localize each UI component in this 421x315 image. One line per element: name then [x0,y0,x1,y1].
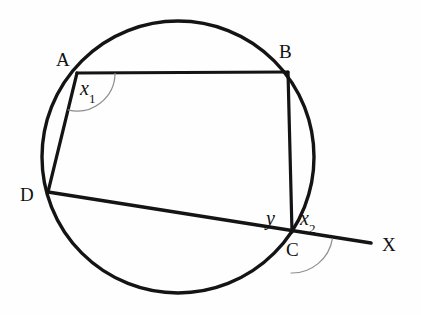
geometry-canvas [0,0,421,315]
vertex-label-x: X [382,235,396,254]
vertex-label-d: D [20,185,34,204]
chord-ab [77,72,288,73]
geometry-figure: A B C D X x1 x2 y [0,0,421,315]
secant-dcx [48,192,371,243]
angle-label-y: y [266,208,275,228]
angle-label-x1: x1 [80,78,95,102]
vertex-label-a: A [56,50,70,69]
vertex-label-b: B [279,42,292,61]
vertex-label-c: C [286,240,299,259]
circumscribed-circle [42,21,314,293]
angle-label-x2: x2 [300,208,315,232]
chord-bc [288,72,292,232]
chord-ad [48,73,77,192]
